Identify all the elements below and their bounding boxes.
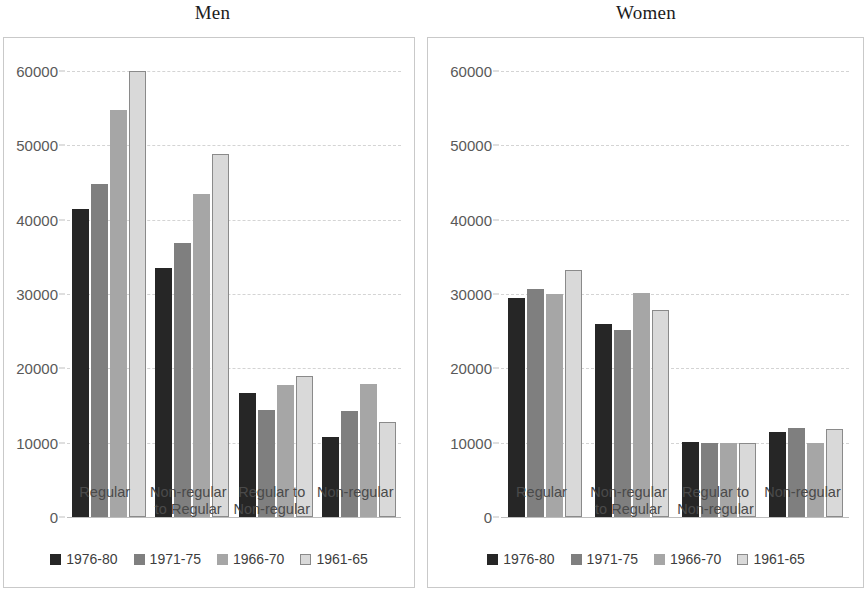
bar-group (501, 71, 588, 517)
bar-group (151, 71, 235, 517)
ytick-dash (493, 219, 499, 220)
legend-swatch-icon (300, 554, 311, 565)
x-axis-label: Non-regular (759, 484, 846, 518)
ytick-dash (493, 71, 499, 72)
panel-women: Women 60000 50000 40000 30 (425, 0, 867, 594)
legend-swatch-icon (737, 554, 748, 565)
legend-label: 1961-65 (316, 551, 367, 567)
bar (193, 194, 210, 517)
legend-women: 1976-80 1971-75 1966-70 1961-65 (428, 551, 864, 567)
legend-label: 1966-70 (233, 551, 284, 567)
ytick-dash (493, 442, 499, 443)
ytick-label: 10000 (450, 434, 492, 451)
ytick-label: 30000 (16, 286, 58, 303)
x-axis-label: Regular to Non-regular (230, 484, 314, 518)
legend-item[interactable]: 1976-80 (50, 551, 117, 567)
ytick-dash (59, 442, 65, 443)
x-axis-label: Non-regular (314, 484, 398, 518)
plot-area-men: 60000 50000 40000 30000 20000 10000 0 (67, 71, 401, 517)
bar (174, 243, 191, 517)
figure-two-panel-bar-charts: Men 60000 50000 40000 3000 (0, 0, 867, 594)
ytick-label: 50000 (16, 137, 58, 154)
x-axis-labels-women: Regular Non-regular to Regular Regular t… (498, 484, 846, 518)
ytick-label: 60000 (450, 63, 492, 80)
panel-title-women: Women (425, 2, 867, 24)
bar (129, 71, 146, 517)
bar (72, 209, 89, 517)
bar (212, 154, 229, 517)
legend-label: 1971-75 (587, 551, 638, 567)
bar-group (318, 71, 402, 517)
legend-item[interactable]: 1971-75 (134, 551, 201, 567)
ytick-label: 40000 (450, 211, 492, 228)
legend-label: 1976-80 (66, 551, 117, 567)
bar (155, 268, 172, 517)
legend-label: 1976-80 (503, 551, 554, 567)
ytick-dash (493, 294, 499, 295)
x-axis-labels-men: Regular Non-regular to Regular Regular t… (63, 484, 397, 518)
bar-group (675, 71, 762, 517)
bar (565, 270, 582, 517)
legend-label: 1961-65 (753, 551, 804, 567)
legend-swatch-icon (654, 554, 665, 565)
plot-area-women: 60000 50000 40000 30000 20000 10000 0 (501, 71, 849, 517)
x-axis-label: Regular to Non-regular (672, 484, 759, 518)
x-axis-label: Regular (63, 484, 147, 518)
ytick-label: 20000 (450, 360, 492, 377)
bar-groups-men (67, 71, 401, 517)
x-axis-label: Non-regular to Regular (147, 484, 231, 518)
ytick-label: 10000 (16, 434, 58, 451)
ytick-dash (59, 368, 65, 369)
legend-swatch-icon (50, 554, 61, 565)
bar (110, 110, 127, 517)
ytick-dash (59, 219, 65, 220)
panel-men: Men 60000 50000 40000 3000 (0, 0, 425, 594)
bar (527, 289, 544, 517)
ytick-label: 50000 (450, 137, 492, 154)
ytick-dash (59, 71, 65, 72)
bar (91, 184, 108, 517)
legend-label: 1971-75 (150, 551, 201, 567)
ytick-dash (59, 294, 65, 295)
bar-group (234, 71, 318, 517)
legend-swatch-icon (571, 554, 582, 565)
ytick-dash (493, 368, 499, 369)
panel-title-men: Men (0, 2, 425, 24)
bar-group (67, 71, 151, 517)
legend-item[interactable]: 1971-75 (571, 551, 638, 567)
ytick-dash (59, 145, 65, 146)
legend-item[interactable]: 1966-70 (654, 551, 721, 567)
bar-group (762, 71, 849, 517)
ytick-label: 0 (484, 509, 492, 526)
legend-swatch-icon (217, 554, 228, 565)
legend-swatch-icon (134, 554, 145, 565)
legend-item[interactable]: 1961-65 (737, 551, 804, 567)
legend-item[interactable]: 1966-70 (217, 551, 284, 567)
ytick-label: 30000 (450, 286, 492, 303)
ytick-dash (493, 145, 499, 146)
legend-label: 1966-70 (670, 551, 721, 567)
ytick-label: 60000 (16, 63, 58, 80)
bar-groups-women (501, 71, 849, 517)
ytick-label: 0 (50, 509, 58, 526)
x-axis-label: Non-regular to Regular (585, 484, 672, 518)
ytick-label: 40000 (16, 211, 58, 228)
bar-group (588, 71, 675, 517)
legend-item[interactable]: 1961-65 (300, 551, 367, 567)
legend-swatch-icon (487, 554, 498, 565)
legend-men: 1976-80 1971-75 1966-70 1961-65 (4, 551, 414, 567)
ytick-label: 20000 (16, 360, 58, 377)
legend-item[interactable]: 1976-80 (487, 551, 554, 567)
x-axis-label: Regular (498, 484, 585, 518)
